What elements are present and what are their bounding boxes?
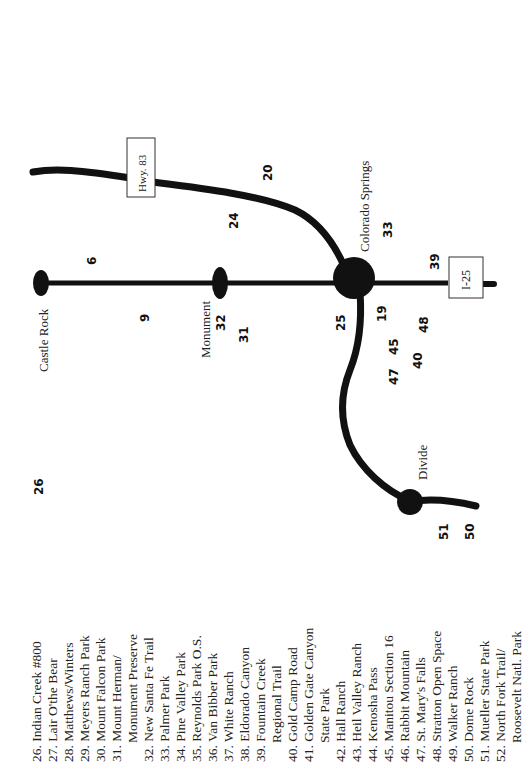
legend-item: 46. Rabbit Mountain: [397, 650, 413, 762]
legend-item: 37. White Ranch: [221, 671, 237, 762]
legend-item: State Park: [317, 688, 333, 743]
legend-item: 31. Mount Herman/: [109, 655, 125, 762]
legend-item: 38. Eldorado Canyon: [237, 647, 253, 762]
legend-item: 45. Manitou Section 16: [381, 635, 397, 762]
legend-item: 26. Indian Creek #800: [29, 641, 45, 762]
legend-item: 28. Matthews/Winters: [61, 643, 77, 762]
legend-item: Monument Preserve: [125, 634, 141, 743]
legend-item: 36. Van Bibber Park: [205, 653, 221, 762]
legend-item: 29. Meyers Ranch Park: [77, 635, 93, 762]
legend-item: 44. Kenosha Pass: [365, 667, 381, 762]
legend-item: 39. Fountain Creek: [253, 658, 269, 762]
legend-item: 27. Lair O'the Bear: [45, 658, 61, 762]
legend-item: 42. Hall Ranch: [333, 681, 349, 762]
legend-item: 52. North Fork Trail/: [493, 649, 509, 762]
legend-item: 40. Gold Camp Road: [285, 647, 301, 762]
legend-item: 48. Stratton Open Space: [429, 631, 445, 762]
legend-item: 47. St. Mary's Falls: [413, 657, 429, 762]
legend-item: 32. New Santa Fe Trail: [141, 637, 157, 762]
legend-item: 30. Mount Falcon Park: [93, 638, 109, 763]
legend-item: 49. Walker Ranch: [445, 665, 461, 762]
legend-item: 41. Golden Gate Canyon: [301, 628, 317, 762]
legend-item: Roosevelt Natl. Park: [509, 631, 525, 743]
legend-item: 33. Palmer Park: [157, 675, 173, 762]
legend-item: 34. Pine Valley Park: [173, 652, 189, 762]
legend-item: 50. Dome Rock: [461, 677, 477, 762]
legend-item: Regional Trail: [269, 665, 285, 743]
legend-item: 51. Mueller State Park: [477, 641, 493, 762]
legend-item: 43. Heil Valley Ranch: [349, 643, 365, 762]
legend-item: 35. Reynolds Park O.S.: [189, 635, 205, 762]
